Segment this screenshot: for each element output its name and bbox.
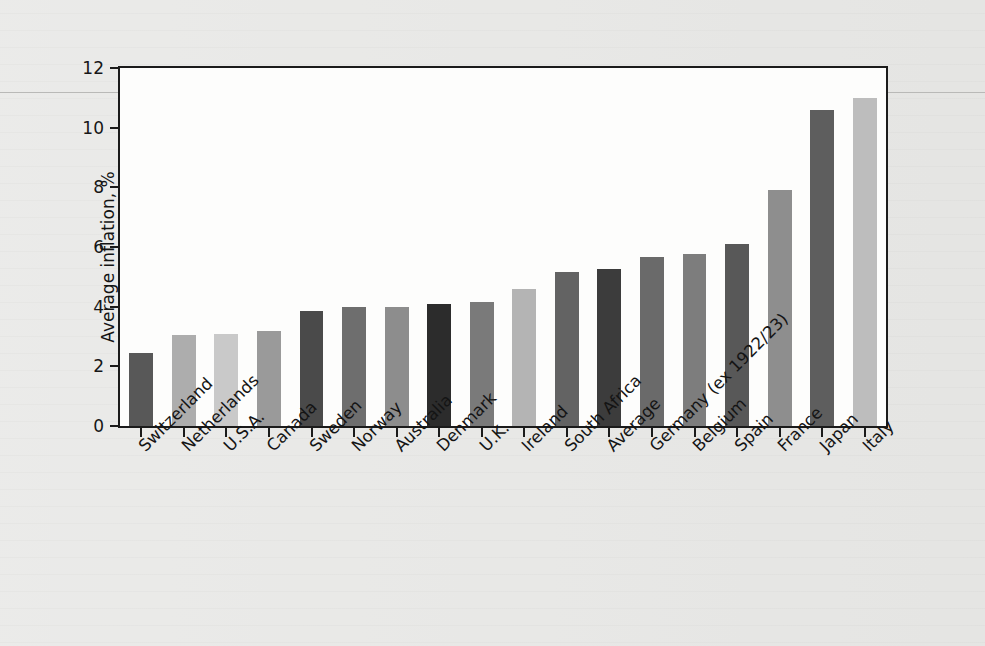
figure-canvas: Average inflation, % 024681012 Switzerla… [0,0,985,646]
x-axis-tick-labels: SwitzerlandNetherlandsU.S.A.CanadaSweden… [0,0,985,646]
x-axis-tick-label: France [774,403,826,455]
x-axis-tick-label: Italy [859,417,898,456]
x-axis-tick-label: Ireland [518,402,572,456]
x-axis-tick-label: U.K. [476,418,513,455]
